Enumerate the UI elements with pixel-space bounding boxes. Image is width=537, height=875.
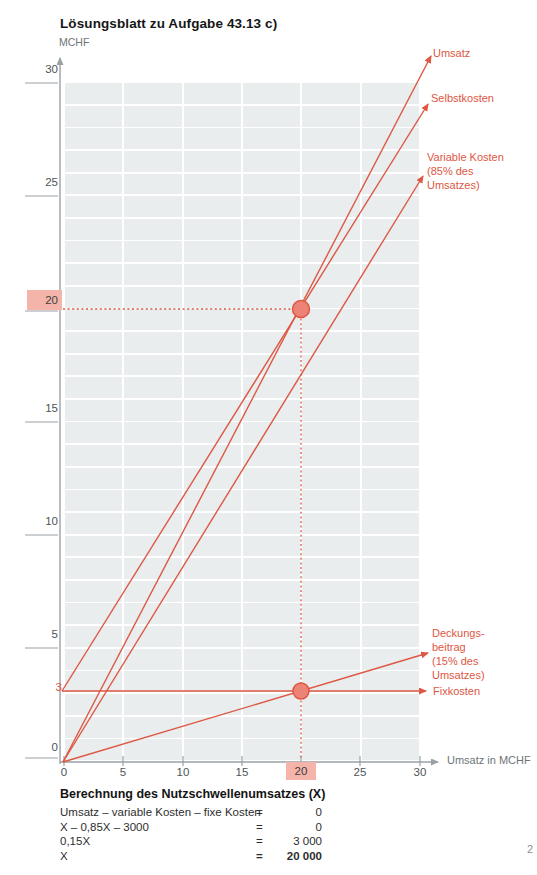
calc-expr: 0,15X bbox=[60, 834, 256, 849]
calc-value: 0 bbox=[272, 805, 322, 820]
calc-row-4: X = 20 000 bbox=[60, 849, 340, 864]
calculation-block: Berechnung des Nutzschwellenumsatzes (X)… bbox=[60, 787, 340, 863]
umsatz-line bbox=[63, 56, 431, 762]
x-tick-20-highlighted: 20 bbox=[286, 762, 316, 780]
selbstkosten-line bbox=[62, 104, 428, 691]
solution-sheet-page: Lösungsblatt zu Aufgabe 43.13 c) MCHF bbox=[0, 0, 537, 875]
fixkosten-intersection-point bbox=[293, 683, 309, 699]
deckungsbeitrag-line bbox=[63, 653, 428, 762]
calc-expr: X bbox=[60, 849, 256, 864]
x-tick-15: 15 bbox=[227, 766, 257, 778]
x-tick-0: 0 bbox=[49, 766, 79, 778]
x-axis-ticks bbox=[64, 756, 420, 766]
chart-canvas bbox=[0, 0, 537, 875]
break-even-point bbox=[293, 301, 310, 318]
y-tick-3-fixkosten: 3 bbox=[30, 681, 62, 693]
x-tick-25: 25 bbox=[345, 766, 375, 778]
y-tick-30: 30 bbox=[26, 63, 58, 75]
deckungsbeitrag-label: Deckungs- beitrag (15% des Umsatzes) bbox=[432, 626, 485, 682]
page-number-mark: 2 bbox=[527, 843, 533, 855]
y-tick-15: 15 bbox=[26, 402, 58, 414]
equals-sign: = bbox=[256, 849, 272, 864]
calculation-heading: Berechnung des Nutzschwellenumsatzes (X) bbox=[60, 787, 340, 801]
variable-kosten-line bbox=[63, 176, 423, 762]
calc-row-2: X – 0,85X – 3000 = 0 bbox=[60, 820, 340, 835]
fixkosten-label: Fixkosten bbox=[433, 684, 480, 698]
equals-sign: = bbox=[256, 834, 272, 849]
x-tick-5: 5 bbox=[108, 766, 138, 778]
calc-value: 3 000 bbox=[272, 834, 322, 849]
equals-sign: = bbox=[256, 805, 272, 820]
calc-row-3: 0,15X = 3 000 bbox=[60, 834, 340, 849]
x-tick-10: 10 bbox=[168, 766, 198, 778]
x-tick-30: 30 bbox=[405, 766, 435, 778]
variable-kosten-label: Variable Kosten (85% des Umsatzes) bbox=[427, 150, 504, 192]
y-tick-0: 0 bbox=[26, 741, 58, 753]
y-tick-5: 5 bbox=[26, 628, 58, 640]
x-axis-title: Umsatz in MCHF bbox=[447, 754, 531, 766]
selbstkosten-label: Selbstkosten bbox=[431, 91, 494, 105]
equals-sign: = bbox=[256, 820, 272, 835]
y-tick-10: 10 bbox=[26, 515, 58, 527]
calc-expr: Umsatz – variable Kosten – fixe Kosten bbox=[60, 805, 256, 820]
umsatz-label: Umsatz bbox=[433, 46, 470, 60]
calc-value: 0 bbox=[272, 820, 322, 835]
calc-expr: X – 0,85X – 3000 bbox=[60, 820, 256, 835]
y-tick-25: 25 bbox=[26, 176, 58, 188]
calc-row-1: Umsatz – variable Kosten – fixe Kosten =… bbox=[60, 805, 340, 820]
calc-value: 20 000 bbox=[272, 849, 322, 864]
y-tick-20-highlighted: 20 bbox=[27, 290, 62, 310]
